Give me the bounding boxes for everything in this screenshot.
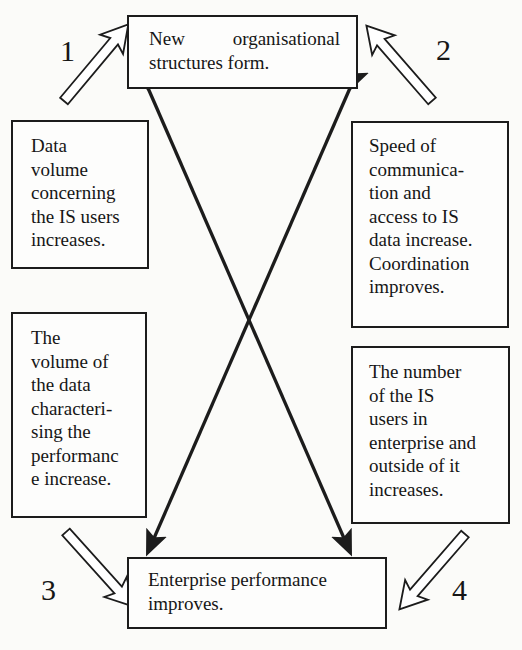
box-data-volume-users: Data volume concerning the IS users incr…	[11, 120, 149, 269]
cross-arrow-tr-bl	[148, 88, 350, 552]
box-top-word-2: organisational	[233, 27, 340, 51]
box-top-line2: structures form.	[149, 51, 340, 75]
box-number-of-is-users: The number of the IS users in enterprise…	[351, 346, 510, 524]
box-right-top-text: Speed of communica- tion and access to I…	[369, 134, 499, 299]
hollow-arrow-2-icon	[355, 16, 443, 111]
box-left-top-text: Data volume concerning the IS users incr…	[31, 134, 137, 252]
box-top-word-1: New	[149, 27, 185, 51]
box-top-line1: New organisational	[149, 27, 340, 51]
box-right-bottom-text: The number of the IS users in enterprise…	[369, 360, 502, 501]
box-new-organisational-structures: New organisational structures form.	[127, 15, 358, 89]
box-left-bottom-text: The volume of the data characteri- sing …	[31, 326, 139, 491]
box-enterprise-performance: Enterprise performance improves.	[127, 557, 387, 629]
arrow-label-4: 4	[452, 575, 467, 605]
box-bottom-text: Enterprise performance improves.	[148, 568, 375, 615]
cross-arrow-tl-br	[148, 88, 350, 552]
box-speed-of-communication: Speed of communica- tion and access to I…	[351, 121, 509, 328]
arrow-label-1: 1	[60, 36, 75, 66]
box-performance-data-volume: The volume of the data characteri- sing …	[11, 312, 147, 518]
arrow-label-3: 3	[41, 575, 56, 605]
arrow-label-2: 2	[436, 35, 451, 65]
